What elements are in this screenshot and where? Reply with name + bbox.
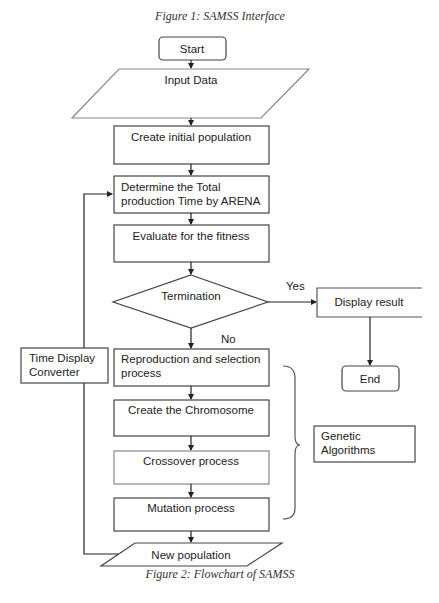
input-data-node: Input Data (72, 69, 309, 118)
figure-2-caption: Figure 2: Flowchart of SAMSS (145, 567, 295, 581)
new-population-label: New population (151, 549, 230, 561)
determine-label-line1: Determine the Total (121, 181, 221, 193)
yes-label: Yes (286, 280, 305, 292)
display-result-node: Display result (317, 288, 422, 317)
time-display-label-line2: Converter (29, 366, 80, 378)
start-label: Start (180, 43, 205, 55)
genetic-algorithms-node: Genetic Algorithms (314, 426, 415, 462)
time-display-label-line1: Time Display (29, 352, 95, 364)
end-label: End (360, 373, 380, 385)
termination-label: Termination (161, 290, 220, 302)
crossover-label: Crossover process (143, 455, 239, 467)
crossover-node: Crossover process (114, 451, 269, 484)
determine-production-time-node: Determine the Total production Time by A… (114, 176, 269, 213)
input-data-label: Input Data (164, 74, 218, 86)
reproduction-selection-node: Reproduction and selection process (114, 349, 269, 386)
reproduction-label-line2: process (121, 367, 162, 379)
display-result-label: Display result (334, 296, 404, 308)
reproduction-label-line1: Reproduction and selection (121, 353, 260, 365)
figure-1-caption: Figure 1: SAMSS Interface (154, 9, 286, 23)
create-initial-population-node: Create initial population (114, 126, 269, 164)
evaluate-label: Evaluate for the fitness (133, 230, 250, 242)
determine-label-line2: production Time by ARENA (121, 195, 261, 207)
genetic-label-line1: Genetic (321, 430, 361, 442)
no-label: No (221, 333, 236, 345)
create-initial-population-label: Create initial population (131, 131, 251, 143)
create-chromosome-label: Create the Chromosome (128, 404, 254, 416)
time-display-converter-node: Time Display Converter (21, 348, 108, 383)
genetic-algorithms-brace (283, 366, 300, 519)
end-node: End (342, 366, 399, 391)
new-population-node: New population (101, 543, 282, 566)
mutation-label: Mutation process (147, 502, 235, 514)
evaluate-fitness-node: Evaluate for the fitness (114, 225, 269, 262)
mutation-node: Mutation process (114, 498, 269, 531)
create-chromosome-node: Create the Chromosome (114, 400, 269, 436)
genetic-label-line2: Algorithms (321, 444, 376, 456)
flowchart-canvas: Figure 1: SAMSS Interface Start Input Da… (0, 0, 439, 603)
start-node: Start (159, 37, 226, 60)
termination-decision-node: Termination (113, 275, 268, 328)
